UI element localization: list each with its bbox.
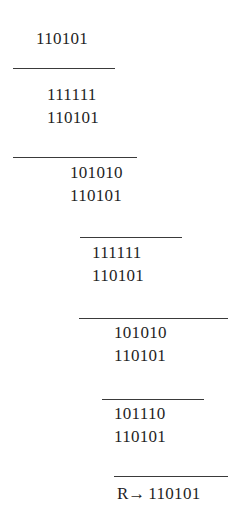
- division-rule: [80, 237, 182, 238]
- binary-operand-row: 110101: [92, 266, 144, 286]
- division-rule: [102, 399, 204, 400]
- binary-operand-row: 110101: [114, 427, 166, 447]
- binary-division-worksheet: 1101011111111101011010101101011111111101…: [0, 0, 234, 518]
- remainder-row: R→110101: [117, 484, 201, 504]
- division-rule: [13, 68, 115, 69]
- division-rule: [13, 157, 137, 158]
- binary-operand-row: 111111: [92, 243, 142, 263]
- binary-operand-row: 110101: [70, 186, 122, 206]
- binary-operand-row: 110101: [36, 29, 88, 49]
- division-rule: [79, 318, 228, 319]
- division-rule: [114, 476, 228, 477]
- binary-operand-row: 111111: [47, 85, 97, 105]
- binary-operand-row: 110101: [47, 108, 99, 128]
- right-arrow-icon: →: [128, 484, 148, 503]
- binary-operand-row: 101110: [114, 404, 166, 424]
- remainder-label: R: [117, 484, 128, 503]
- binary-operand-row: 101010: [114, 323, 167, 343]
- binary-operand-row: 110101: [114, 346, 166, 366]
- binary-operand-row: 101010: [70, 163, 123, 183]
- remainder-value: 110101: [148, 484, 200, 503]
